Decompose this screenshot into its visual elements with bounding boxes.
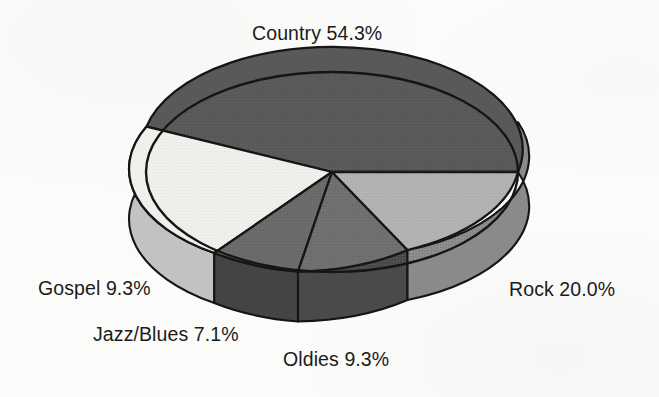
pie-label-gospel: Gospel 9.3% (38, 279, 151, 299)
pie-label-jazz-blues: Jazz/Blues 7.1% (93, 325, 239, 345)
top-face-texture (146, 72, 518, 272)
pie-label-rock: Rock 20.0% (509, 280, 615, 300)
pie-label-oldies: Oldies 9.3% (283, 350, 389, 370)
pie-top-faces (129, 47, 523, 272)
pie-chart-figure: Country 54.3% Rock 20.0% Oldies 9.3% Jaz… (0, 0, 659, 397)
pie-label-country: Country 54.3% (252, 24, 382, 44)
